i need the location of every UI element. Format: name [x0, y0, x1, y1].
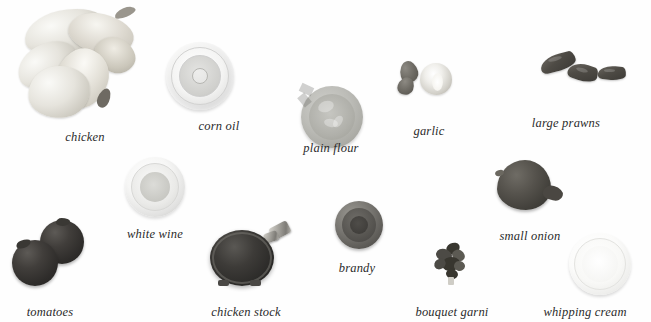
label-corn-oil: corn oil: [199, 119, 240, 134]
stock-pot-icon: [204, 220, 302, 296]
glass-bowl-of-oil-icon: [165, 41, 235, 111]
label-large-prawns: large prawns: [532, 116, 600, 131]
prawns-icon: [538, 50, 628, 96]
bowl-of-cream-icon: [568, 232, 632, 296]
label-chicken: chicken: [65, 130, 105, 145]
label-chicken-stock: chicken stock: [211, 305, 281, 320]
garlic-bulb-and-cloves-icon: [398, 57, 458, 103]
label-brandy: brandy: [339, 261, 376, 276]
herb-bundle-icon: [430, 243, 474, 291]
label-garlic: garlic: [413, 124, 444, 139]
bowl-of-flour-icon: [300, 85, 364, 149]
chicken-pieces-icon: [10, 4, 140, 124]
label-plain-flour: plain flour: [303, 141, 358, 156]
bowl-of-brandy-icon: [334, 200, 384, 250]
label-tomatoes: tomatoes: [27, 305, 74, 320]
label-small-onion: small onion: [500, 229, 561, 244]
ingredients-board: chicken corn oil plain flour garlic larg…: [0, 0, 651, 322]
onion-icon: [493, 158, 567, 214]
tomatoes-icon: [6, 218, 98, 290]
label-whipping-cream: whipping cream: [543, 305, 626, 320]
label-bouquet-garni: bouquet garni: [415, 305, 488, 320]
label-white-wine: white wine: [127, 227, 183, 242]
glass-bowl-of-white-wine-icon: [124, 156, 186, 218]
